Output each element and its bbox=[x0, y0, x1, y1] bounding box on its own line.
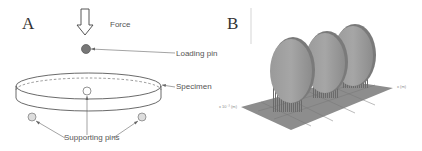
supporting-pin-left-icon bbox=[28, 113, 36, 121]
supporting-pins-label: Supporting pins bbox=[64, 133, 120, 142]
panel-b-3d-stress-plot: B bbox=[211, 0, 422, 151]
supporting-pin-right-icon bbox=[138, 113, 146, 121]
specimen-label: Specimen bbox=[176, 82, 212, 91]
loading-pin-icon bbox=[82, 45, 91, 54]
right-axis-label: x (m) bbox=[397, 84, 406, 89]
force-arrow-icon bbox=[77, 9, 93, 35]
disc-1-icon bbox=[270, 37, 315, 103]
supporting-pin-center-icon bbox=[83, 87, 91, 95]
schematic-drawing bbox=[0, 0, 211, 151]
3d-plot bbox=[211, 0, 422, 151]
panel-a-ball-on-three-balls-schematic: A bbox=[0, 0, 211, 151]
left-axis-label: x 10⁻³ (m) bbox=[219, 104, 237, 109]
force-label: Force bbox=[110, 20, 130, 29]
